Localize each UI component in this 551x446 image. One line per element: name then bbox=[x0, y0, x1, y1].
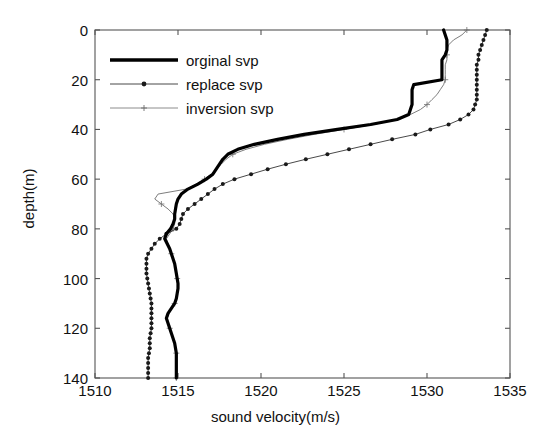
series-marker-1 bbox=[221, 182, 225, 186]
y-axis-ticks bbox=[95, 30, 510, 378]
series-marker-1 bbox=[181, 212, 185, 216]
series-marker-1 bbox=[480, 43, 484, 47]
series-marker-1 bbox=[199, 197, 203, 201]
series-marker-1 bbox=[471, 108, 475, 112]
series-marker-1 bbox=[149, 306, 153, 310]
series-marker-1 bbox=[193, 202, 197, 206]
series-marker-1 bbox=[428, 127, 432, 131]
y-tick-label: 0 bbox=[42, 22, 88, 39]
x-axis-label: sound velocity(m/s) bbox=[0, 408, 551, 425]
series-marker-1 bbox=[232, 177, 236, 181]
y-tick-label: 40 bbox=[42, 121, 88, 138]
y-axis-label: depth(m) bbox=[20, 149, 37, 249]
series-marker-1 bbox=[481, 38, 485, 42]
legend-sample-lines bbox=[110, 60, 178, 111]
series-marker-1 bbox=[476, 53, 480, 57]
series-marker-1 bbox=[153, 242, 157, 246]
series-marker-1 bbox=[475, 63, 479, 67]
y-tick-label: 140 bbox=[42, 370, 88, 387]
series-marker-1 bbox=[304, 157, 308, 161]
series-marker-1 bbox=[149, 311, 153, 315]
series-marker-1 bbox=[475, 93, 479, 97]
series-marker-1 bbox=[144, 272, 148, 276]
series-marker-1 bbox=[158, 237, 162, 241]
series-marker-1 bbox=[475, 88, 479, 92]
series-marker-1 bbox=[146, 252, 150, 256]
series-marker-1 bbox=[178, 222, 182, 226]
series-marker-1 bbox=[473, 103, 477, 107]
series-marker-1 bbox=[147, 351, 151, 355]
y-tick-label: 60 bbox=[42, 171, 88, 188]
series-marker-1 bbox=[149, 301, 153, 305]
series-marker-1 bbox=[179, 217, 183, 221]
legend-label-2: inversion svp bbox=[186, 100, 274, 117]
series-marker-1 bbox=[146, 376, 150, 380]
series-marker-1 bbox=[369, 142, 373, 146]
series-marker-1 bbox=[149, 321, 153, 325]
series-marker-1 bbox=[148, 291, 152, 295]
series-marker-1 bbox=[476, 58, 480, 62]
series-marker-1 bbox=[148, 346, 152, 350]
series-marker-1 bbox=[475, 78, 479, 82]
series-marker-1 bbox=[266, 167, 270, 171]
x-axis-ticks bbox=[95, 30, 510, 378]
legend-marker-2 bbox=[141, 105, 147, 111]
series-marker-1 bbox=[478, 48, 482, 52]
series-marker-1 bbox=[249, 172, 253, 176]
series-marker-1 bbox=[325, 152, 329, 156]
y-tick-label: 20 bbox=[42, 71, 88, 88]
y-tick-label: 100 bbox=[42, 270, 88, 287]
series-marker-1 bbox=[144, 262, 148, 266]
x-tick-label: 1520 bbox=[244, 382, 277, 399]
series-marker-1 bbox=[213, 187, 217, 191]
x-tick-label: 1525 bbox=[327, 382, 360, 399]
series-marker-1 bbox=[146, 361, 150, 365]
series-marker-1 bbox=[146, 366, 150, 370]
series-marker-1 bbox=[174, 227, 178, 231]
series-marker-1 bbox=[146, 282, 150, 286]
series-marker-1 bbox=[347, 147, 351, 151]
series-marker-1 bbox=[149, 326, 153, 330]
legend-label-0: orginal svp bbox=[186, 52, 259, 69]
series-marker-1 bbox=[413, 132, 417, 136]
series-marker-1 bbox=[390, 137, 394, 141]
series-marker-1 bbox=[475, 73, 479, 77]
series-marker-1 bbox=[206, 192, 210, 196]
series-marker-1 bbox=[146, 356, 150, 360]
series-marker-1 bbox=[144, 267, 148, 271]
x-tick-label: 1535 bbox=[493, 382, 526, 399]
series-marker-1 bbox=[149, 296, 153, 300]
series-marker-1 bbox=[284, 162, 288, 166]
series-marker-1 bbox=[475, 98, 479, 102]
series-marker-1 bbox=[148, 336, 152, 340]
series-marker-1 bbox=[149, 316, 153, 320]
series-marker-1 bbox=[186, 207, 190, 211]
series-marker-1 bbox=[447, 122, 451, 126]
series-marker-1 bbox=[149, 247, 153, 251]
series-marker-1 bbox=[483, 33, 487, 37]
series-marker-1 bbox=[145, 277, 149, 281]
axes-frame bbox=[95, 30, 510, 378]
legend-label-1: replace svp bbox=[186, 76, 263, 93]
series-marker-1 bbox=[475, 83, 479, 87]
series-marker-1 bbox=[148, 341, 152, 345]
legend-marker-1 bbox=[142, 82, 147, 87]
series-marker-1 bbox=[144, 257, 148, 261]
series-marker-1 bbox=[147, 287, 151, 291]
series-marker-1 bbox=[475, 68, 479, 72]
series-marker-1 bbox=[458, 117, 462, 121]
x-tick-label: 1530 bbox=[410, 382, 443, 399]
series-marker-1 bbox=[149, 331, 153, 335]
series-marker-1 bbox=[467, 113, 471, 117]
series-marker-1 bbox=[146, 371, 150, 375]
y-tick-label: 80 bbox=[42, 220, 88, 237]
y-tick-label: 120 bbox=[42, 320, 88, 337]
series-marker-1 bbox=[485, 28, 489, 32]
x-tick-label: 1515 bbox=[161, 382, 194, 399]
svp-chart-figure: sound velocity(m/s) depth(m) 15101515152… bbox=[0, 0, 551, 446]
